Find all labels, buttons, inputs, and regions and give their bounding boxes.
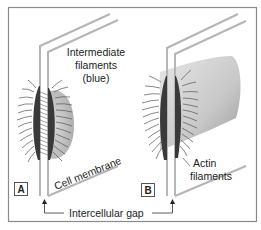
label-intercellular-gap: Intercellular gap [69,207,144,219]
intermediate-filaments-left-a [17,80,36,162]
gap-pointer-b [152,202,173,213]
panel-label-a: A [17,184,24,195]
label-actin-line2: filaments [190,170,232,182]
actin-bundle-shading [160,56,241,150]
label-intermediate-line3: (blue) [83,72,110,84]
gap-arrow-b-icon [170,199,175,204]
actin-pointer [183,158,190,166]
label-actin-line1: Actin [193,157,217,169]
plaque-left-a [33,86,40,160]
gap-arrow-a-icon [42,199,47,204]
label-intermediate-line1: Intermediate [67,46,126,58]
gap-pointer-a [45,202,65,213]
intercellular-links-a [40,92,48,155]
panel-label-b: B [144,185,151,196]
label-cell-membrane: Cell membrane [52,154,123,192]
desmosome-diagram: A [0,0,261,230]
actin-filaments-left-b [142,76,162,159]
label-intermediate-line2: filaments [75,59,117,71]
